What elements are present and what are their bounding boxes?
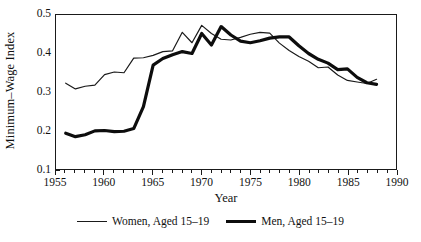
y-tick-label: 0.2 xyxy=(25,125,51,137)
x-tick-mark-minor xyxy=(309,170,310,173)
x-tick-mark-minor xyxy=(133,170,134,173)
x-tick-mark-minor xyxy=(182,170,183,173)
plot-lines xyxy=(56,15,396,169)
x-tick-mark-minor xyxy=(113,170,114,173)
x-tick-mark-minor xyxy=(260,170,261,173)
chart-figure: Minimum–Wage Index 0.10.20.30.40.5 19551… xyxy=(0,0,421,242)
x-tick-mark-minor xyxy=(142,170,143,173)
x-tick-mark-minor xyxy=(328,170,329,173)
x-tick-mark-minor xyxy=(279,170,280,173)
x-tick-mark-minor xyxy=(230,170,231,173)
x-tick-mark-minor xyxy=(162,170,163,173)
legend-label-women: Women, Aged 15–19 xyxy=(112,215,209,227)
x-tick-mark-minor xyxy=(123,170,124,173)
x-tick-label: 1960 xyxy=(84,176,124,188)
x-tick-mark-major xyxy=(103,170,104,175)
x-tick-mark-minor xyxy=(289,170,290,173)
legend-line-swatch-women xyxy=(77,221,107,222)
plot-area xyxy=(55,14,397,170)
x-tick-mark-minor xyxy=(357,170,358,173)
x-tick-label: 1985 xyxy=(328,176,368,188)
x-tick-mark-minor xyxy=(172,170,173,173)
data-line-men xyxy=(66,27,377,137)
legend-item-women: Women, Aged 15–19 xyxy=(77,215,209,227)
legend-line-swatch-men xyxy=(226,220,256,223)
x-tick-mark-minor xyxy=(240,170,241,173)
x-tick-mark-major xyxy=(152,170,153,175)
x-tick-mark-minor xyxy=(318,170,319,173)
x-tick-mark-minor xyxy=(211,170,212,173)
x-tick-mark-major xyxy=(348,170,349,175)
y-tick-label: 0.1 xyxy=(25,164,51,176)
y-tick-label: 0.4 xyxy=(25,47,51,59)
y-axis-title-text: Minimum–Wage Index xyxy=(4,31,19,149)
x-tick-label: 1955 xyxy=(35,176,75,188)
data-line-women xyxy=(66,25,377,89)
y-tick-label: 0.3 xyxy=(25,86,51,98)
chart-legend: Women, Aged 15–19 Men, Aged 15–19 xyxy=(0,215,421,227)
x-tick-mark-major xyxy=(250,170,251,175)
x-tick-mark-minor xyxy=(269,170,270,173)
y-tick-label: 0.5 xyxy=(25,8,51,20)
x-tick-mark-major xyxy=(55,170,56,175)
x-tick-mark-minor xyxy=(64,170,65,173)
x-tick-label: 1990 xyxy=(377,176,417,188)
x-tick-mark-major xyxy=(299,170,300,175)
legend-item-men: Men, Aged 15–19 xyxy=(226,215,344,227)
x-tick-label: 1970 xyxy=(182,176,222,188)
x-tick-mark-minor xyxy=(84,170,85,173)
x-tick-mark-minor xyxy=(191,170,192,173)
x-tick-mark-minor xyxy=(74,170,75,173)
x-tick-mark-major xyxy=(201,170,202,175)
legend-label-men: Men, Aged 15–19 xyxy=(261,215,344,227)
x-tick-label: 1980 xyxy=(279,176,319,188)
x-axis-title: Year xyxy=(55,191,397,206)
y-axis-title: Minimum–Wage Index xyxy=(0,0,22,180)
x-tick-label: 1975 xyxy=(230,176,270,188)
x-tick-mark-minor xyxy=(338,170,339,173)
x-tick-mark-minor xyxy=(387,170,388,173)
x-tick-label: 1965 xyxy=(133,176,173,188)
x-tick-mark-minor xyxy=(221,170,222,173)
x-tick-mark-major xyxy=(397,170,398,175)
x-tick-mark-minor xyxy=(367,170,368,173)
x-tick-mark-minor xyxy=(94,170,95,173)
x-tick-mark-minor xyxy=(377,170,378,173)
